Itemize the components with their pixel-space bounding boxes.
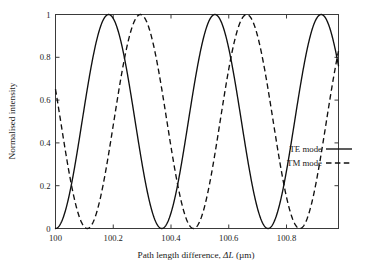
y-tick-label-4: 0.8 bbox=[40, 52, 51, 62]
legend-label-tm-mode: TM mode bbox=[287, 158, 322, 168]
x-tick-label-3: 100.6 bbox=[219, 233, 239, 243]
x-tick-label-4: 100.8 bbox=[277, 233, 296, 243]
x-axis-title: Path length difference, ΔL (µm) bbox=[138, 250, 255, 260]
y-tick-label-1: 0.2 bbox=[40, 181, 51, 191]
chart-figure: 100100.2100.4100.6100.8 00.20.40.60.81 T… bbox=[0, 0, 372, 271]
y-tick-label-2: 0.4 bbox=[40, 138, 51, 148]
intensity-interference-chart: 100100.2100.4100.6100.8 00.20.40.60.81 T… bbox=[0, 0, 372, 271]
y-tick-label-3: 0.6 bbox=[40, 95, 51, 105]
legend-label-te-mode: TE mode bbox=[290, 144, 323, 154]
x-tick-label-0: 100 bbox=[49, 233, 62, 243]
y-tick-label-0: 0 bbox=[46, 224, 50, 234]
x-tick-label-2: 100.4 bbox=[161, 233, 181, 243]
y-tick-label-5: 1 bbox=[46, 10, 50, 20]
y-axis-title: Normalised intensity bbox=[7, 82, 17, 159]
x-tick-label-1: 100.2 bbox=[104, 233, 123, 243]
